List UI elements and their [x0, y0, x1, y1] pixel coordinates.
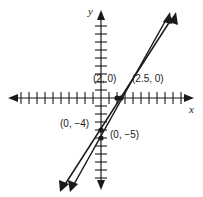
point-label-0-neg4: (0, −4) [60, 119, 89, 129]
y-axis-arrow-up [97, 10, 105, 20]
coordinate-plane-figure: y x (2, 0) (2.5, 0) (0, −4) (0, −5) [0, 0, 203, 197]
x-axis-arrow-right [184, 94, 194, 102]
line-1-graph [68, 12, 172, 192]
y-axis-label: y [88, 6, 93, 17]
x-axis-arrow-left [8, 94, 18, 102]
line-1-arrow-down [68, 180, 78, 192]
y-axis [95, 10, 107, 190]
y-axis-arrow-down [97, 180, 105, 190]
point-label-0-neg5: (0, −5) [110, 130, 139, 140]
marker-y-intercept-neg5 [98, 135, 103, 140]
point-label-2-0: (2, 0) [93, 74, 116, 84]
graph-canvas [0, 0, 203, 197]
marker-y-intercept-neg4 [98, 127, 103, 132]
x-axis-label: x [189, 104, 194, 115]
point-label-2-5-0: (2.5, 0) [132, 74, 164, 84]
marker-x-intercept-2-5 [118, 95, 123, 100]
